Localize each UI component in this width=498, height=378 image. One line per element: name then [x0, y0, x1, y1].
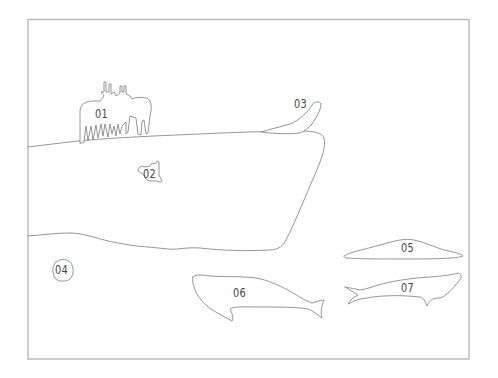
region-01-animals[interactable]	[80, 82, 151, 143]
whale-shape	[345, 273, 461, 306]
creature-shape	[138, 161, 162, 182]
object-shape	[53, 259, 73, 281]
diagram-frame	[28, 20, 469, 360]
region-04-object[interactable]	[53, 259, 73, 281]
region-03-seal[interactable]	[262, 102, 321, 134]
ice-floe-outline	[28, 131, 325, 251]
diagram-canvas: 01 02 03 04 05 06 07	[0, 0, 498, 378]
animals-shape	[80, 82, 151, 143]
seal-shape	[262, 102, 321, 134]
whale-large-shape	[193, 275, 324, 321]
region-02-creature[interactable]	[138, 161, 162, 182]
region-05-floating-shape[interactable]	[344, 239, 463, 259]
diagram-svg	[0, 0, 498, 378]
region-06-whale[interactable]	[193, 275, 324, 321]
region-07-whale[interactable]	[345, 273, 461, 306]
floating-shape	[344, 239, 463, 259]
